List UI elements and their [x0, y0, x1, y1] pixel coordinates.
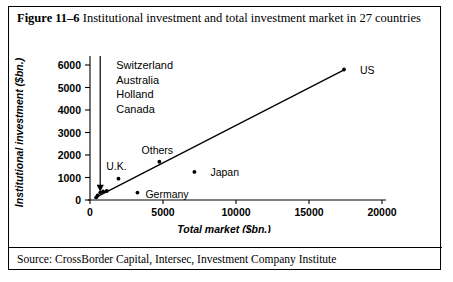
y-tick-label: 1000 [58, 172, 82, 184]
cluster-country-label: Switzerland [116, 59, 173, 71]
data-point[interactable] [117, 177, 121, 181]
x-tick-label: 0 [87, 206, 93, 218]
data-point[interactable] [342, 68, 346, 72]
x-axis-title: Total market ($bn.) [177, 223, 271, 233]
data-point-label: Germany [145, 188, 189, 200]
y-tick-label: 3000 [58, 127, 82, 139]
y-tick-label: 2000 [58, 149, 82, 161]
y-tick-label: 4000 [58, 104, 82, 116]
cluster-country-label: Canada [116, 103, 155, 115]
data-point-label: U.K. [106, 160, 126, 172]
figure-caption-text: Institutional investment and total inves… [80, 11, 421, 25]
data-point-label: Others [142, 144, 174, 156]
figure-container: Figure 11–6 Institutional investment and… [8, 6, 441, 270]
data-point[interactable] [136, 191, 140, 195]
data-point-label: Japan [210, 166, 239, 178]
figure-number: Figure 11–6 [17, 11, 80, 25]
data-point[interactable] [98, 191, 102, 195]
data-point[interactable] [192, 170, 196, 174]
data-point[interactable] [94, 195, 98, 199]
figure-caption: Figure 11–6 Institutional investment and… [9, 7, 442, 26]
cluster-country-label: Holland [116, 88, 153, 100]
x-tick-label: 20000 [367, 206, 396, 218]
y-axis-title: Institutional investment ($bn.) [13, 57, 25, 207]
cluster-country-label: Australia [116, 74, 160, 86]
x-tick-label: 15000 [294, 206, 323, 218]
x-tick-label: 5000 [151, 206, 175, 218]
scatter-chart: 0500010000150002000001000200030004000500… [9, 45, 442, 233]
source-text: Source: CrossBorder Capital, Intersec, I… [9, 253, 336, 265]
data-point-label: US [360, 64, 375, 76]
y-tick-label: 5000 [58, 82, 82, 94]
data-point[interactable] [157, 160, 161, 164]
x-tick-label: 10000 [221, 206, 250, 218]
data-point[interactable] [105, 189, 109, 193]
y-tick-label: 6000 [58, 59, 82, 71]
chart-plot-area: 0500010000150002000001000200030004000500… [9, 45, 442, 233]
source-bar: Source: CrossBorder Capital, Intersec, I… [9, 247, 442, 269]
y-tick-label: 0 [75, 194, 81, 206]
